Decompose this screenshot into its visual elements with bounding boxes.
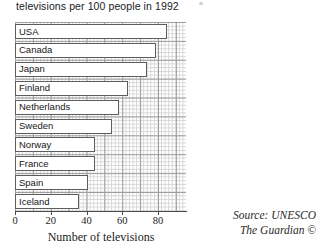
bar-label-france: France — [19, 159, 49, 169]
bar-japan: Japan — [15, 62, 147, 77]
x-tick-label-40: 40 — [75, 215, 99, 226]
bar-label-japan: Japan — [19, 64, 45, 74]
bar-label-usa: USA — [19, 27, 39, 37]
bar-label-sweden: Sweden — [19, 121, 53, 131]
bar-finland: Finland — [15, 81, 128, 96]
bar-label-norway: Norway — [19, 140, 51, 150]
source-line-guardian: The Guardian © — [186, 223, 316, 238]
bar-norway: Norway — [15, 137, 95, 152]
bar-sweden: Sweden — [15, 119, 112, 134]
bar-label-finland: Finland — [19, 83, 50, 93]
bar-netherlands: Netherlands — [15, 100, 119, 115]
bar-label-iceland: Iceland — [19, 197, 50, 207]
bar-france: France — [15, 156, 95, 171]
bar-canada: Canada — [15, 43, 156, 58]
x-tick-label-80: 80 — [146, 215, 170, 226]
x-axis-label: Number of televisions — [15, 230, 187, 245]
source-attribution: Source: UNESCO The Guardian © — [186, 208, 316, 238]
bar-spain: Spain — [15, 175, 88, 190]
bar-label-netherlands: Netherlands — [19, 102, 70, 112]
bar-label-spain: Spain — [19, 178, 43, 188]
bar-usa: USA — [15, 24, 167, 39]
source-line-unesco: Source: UNESCO — [186, 208, 316, 223]
x-tick-label-20: 20 — [39, 215, 63, 226]
x-tick-label-0: 0 — [3, 215, 27, 226]
x-axis-line — [15, 211, 187, 212]
bar-label-canada: Canada — [19, 45, 52, 55]
bar-iceland: Iceland — [15, 194, 79, 209]
x-tick-label-60: 60 — [110, 215, 134, 226]
